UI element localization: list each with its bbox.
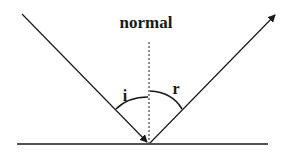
reflected-ray — [150, 15, 275, 143]
normal-label: normal — [120, 13, 173, 32]
incident-ray — [22, 14, 147, 142]
incident-angle-arc — [116, 97, 148, 109]
reflected-angle-label: r — [172, 80, 179, 97]
incident-angle-label: i — [123, 87, 128, 104]
reflection-diagram: normal i r — [0, 0, 286, 155]
